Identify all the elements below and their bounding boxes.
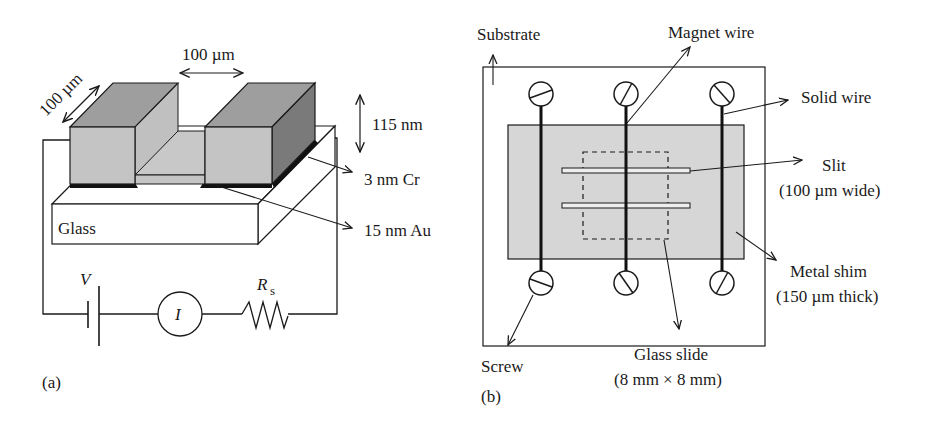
screw-icon	[529, 271, 553, 295]
resistor-symbol	[242, 302, 288, 328]
screw-icon	[614, 82, 638, 106]
screw-icon	[710, 82, 734, 106]
panel-a: 100 µm 100 µm 115 nm 3 nm Cr 15 nm Au Gl…	[35, 45, 431, 392]
resistor-subscript: s	[270, 283, 275, 298]
glass-label: Glass	[58, 219, 96, 238]
screw-label: Screw	[481, 357, 524, 376]
panel-b-caption: (b)	[481, 387, 501, 406]
battery-symbol	[88, 286, 99, 346]
figure-canvas: 100 µm 100 µm 115 nm 3 nm Cr 15 nm Au Gl…	[0, 0, 932, 423]
solid-wire-label: Solid wire	[801, 88, 871, 107]
au-label: 15 nm Au	[364, 221, 432, 240]
panel-b: Substrate Magnet wire Solid wire Slit (1…	[477, 23, 880, 406]
cr-label: 3 nm Cr	[364, 170, 420, 189]
glass-slide-sub-label: (8 mm × 8 mm)	[614, 370, 722, 389]
panel-a-caption: (a)	[42, 373, 61, 392]
metal-shim-label: Metal shim	[790, 262, 867, 281]
magnet-wire-label: Magnet wire	[668, 23, 754, 42]
glass-slide-label: Glass slide	[634, 345, 708, 364]
screw-icon	[710, 271, 734, 295]
screw-icon	[529, 82, 553, 106]
resistor-label: R	[256, 275, 268, 294]
height-label: 115 nm	[372, 115, 423, 134]
metal-shim-sub-label: (150 µm thick)	[776, 287, 878, 306]
width-label: 100 µm	[182, 45, 235, 64]
voltage-label: V	[80, 270, 93, 289]
slit-label: Slit	[822, 156, 846, 175]
slit-sub-label: (100 µm wide)	[779, 181, 880, 200]
notch-front-floor	[135, 175, 205, 184]
substrate-label: Substrate	[477, 25, 540, 44]
screw-icon	[614, 271, 638, 295]
depth-label: 100 µm	[35, 69, 86, 120]
